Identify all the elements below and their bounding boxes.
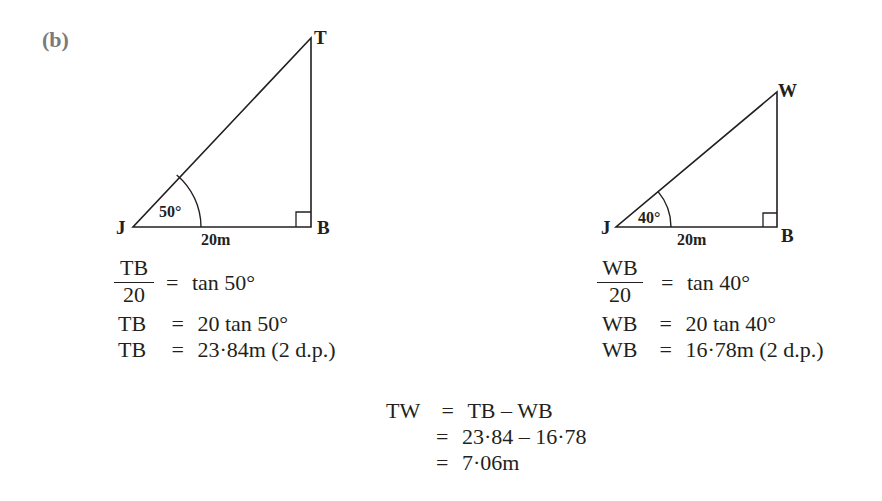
equation-line: WB = 20 tan 40° [602,311,776,337]
equation-rhs: tan 50° [192,270,255,295]
equation-rhs: 20 tan 50° [197,311,288,336]
numerator: TB [114,256,154,280]
left-triangle: J B T 50° 20m [116,27,330,248]
equals-sign: = [660,311,672,336]
equation-rhs: tan 40° [687,270,750,295]
vertex-label-b: B [317,217,330,238]
equation-lhs: WB [602,311,646,337]
equation-rhs: 23·84m (2 d.p.) [197,337,335,362]
equation-rhs: 23·84 – 16·78 [462,424,587,449]
denominator: 20 [597,283,643,307]
equals-sign: = [166,270,178,295]
equation-rhs: 7·06m [462,450,519,475]
equation-line: = 7·06m [436,450,519,476]
equation-line: WB = 16·78m (2 d.p.) [602,337,824,363]
vertex-label-w: W [778,80,797,101]
equals-sign: = [436,424,448,449]
equals-sign: = [661,270,673,295]
equation-rhs: 16·78m (2 d.p.) [685,337,823,362]
equals-sign: = [172,337,184,362]
vertex-label-t: T [314,27,327,48]
right-angle-marker [763,213,777,227]
numerator: WB [597,256,643,280]
equals-sign: = [660,337,672,362]
base-length-label: 20m [677,231,707,248]
vertex-label-j: J [601,217,611,238]
equation-line: = tan 40° [661,270,750,296]
equals-sign: = [172,311,184,336]
right-triangle: J B W 40° 20m [601,80,797,248]
vertex-label-j: J [116,217,126,238]
base-length-label: 20m [201,231,231,248]
angle-label: 50° [159,203,181,220]
vertex-label-b: B [781,225,794,246]
equation-lhs: TB [118,311,158,337]
denominator: 20 [114,283,154,307]
equation-lhs: TB [118,337,158,363]
equation-line: TW = TB – WB [386,398,553,424]
equation-line: TB = 23·84m (2 d.p.) [118,337,336,363]
equation-lhs: WB [602,337,646,363]
equation-rhs: 20 tan 40° [685,311,776,336]
equals-sign: = [442,398,454,423]
equation-line: = 23·84 – 16·78 [436,424,587,450]
equals-sign: = [436,450,448,475]
equation-rhs: TB – WB [467,398,552,423]
equation-lhs: TW [386,398,430,424]
fraction: WB 20 [597,256,643,307]
right-angle-marker [296,212,311,227]
equation-line: = tan 50° [166,270,255,296]
fraction: TB 20 [114,256,154,307]
equation-line: TB = 20 tan 50° [118,311,288,337]
angle-label: 40° [638,209,660,226]
